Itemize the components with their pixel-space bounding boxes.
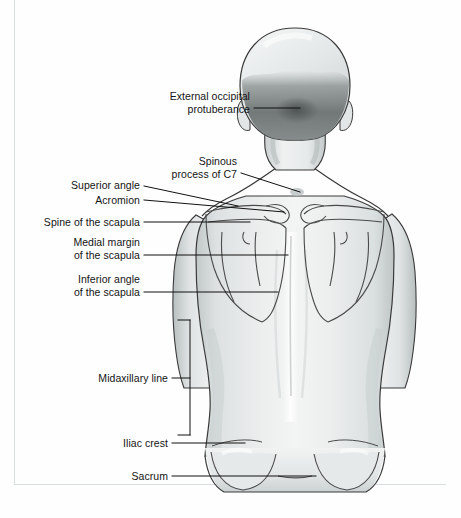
label-acromion: Acromion — [95, 194, 140, 207]
leader-spinous-process-of-c7 — [241, 173, 300, 192]
back-anatomy-illustration — [0, 0, 461, 518]
label-superior-angle: Superior angle — [71, 179, 140, 192]
label-line: Midaxillary line — [98, 372, 168, 385]
label-line: Iliac crest — [123, 437, 168, 450]
label-line: Spine of the scapula — [44, 216, 140, 229]
label-line: of the scapula — [74, 286, 140, 299]
label-spinous-process-of-c7: Spinous process of C7 — [172, 155, 237, 180]
label-line: process of C7 — [172, 168, 237, 181]
label-line: Superior angle — [71, 179, 140, 192]
figure-page: External occipital protuberance Spinous … — [0, 0, 461, 518]
label-medial-margin-of-the-scapula: Medial margin of the scapula — [73, 236, 140, 261]
spinal-furrow-line — [290, 236, 291, 396]
label-midaxillary-line: Midaxillary line — [98, 372, 168, 385]
external-occipital-protuberance-shading — [275, 97, 319, 123]
label-line: Medial margin — [73, 236, 140, 249]
label-spine-of-the-scapula: Spine of the scapula — [44, 216, 140, 229]
label-line: protuberance — [170, 103, 250, 116]
label-line: External occipital — [170, 90, 250, 103]
label-line: Acromion — [95, 194, 140, 207]
label-sacrum: Sacrum — [132, 470, 168, 483]
label-line: of the scapula — [73, 249, 140, 262]
label-external-occipital-protuberance: External occipital protuberance — [170, 90, 250, 115]
label-line: Inferior angle — [74, 273, 140, 286]
label-line: Sacrum — [132, 470, 168, 483]
label-iliac-crest: Iliac crest — [123, 437, 168, 450]
label-line: Spinous — [172, 155, 237, 168]
label-inferior-angle-of-the-scapula: Inferior angle of the scapula — [74, 273, 140, 298]
leader-superior-angle — [144, 186, 238, 206]
